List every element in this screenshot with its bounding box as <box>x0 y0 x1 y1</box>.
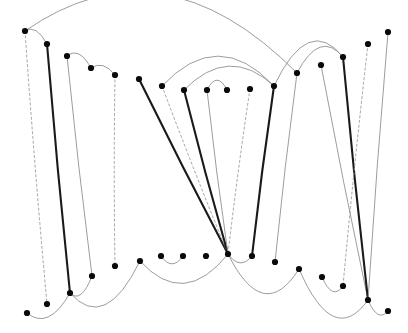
top-arc-7 <box>274 41 343 86</box>
graph-node-m0 <box>24 310 30 316</box>
graph-node-m4 <box>112 263 118 269</box>
long-edge-0 <box>25 31 47 304</box>
graph-node-m1 <box>44 301 50 307</box>
long-edge-4 <box>139 79 228 254</box>
long-edge-14 <box>368 32 388 300</box>
long-edge-13 <box>343 44 368 286</box>
bottom-arc-1 <box>70 261 140 307</box>
graph-node-m12 <box>296 266 302 272</box>
long-edge-1 <box>47 44 70 293</box>
graph-node-m15 <box>365 297 371 303</box>
bottom-arc-8 <box>322 277 343 292</box>
top-arc-edges <box>25 0 343 90</box>
graph-node-n0 <box>22 28 28 34</box>
top-arc-5 <box>184 66 274 90</box>
vertical-edges <box>25 31 388 304</box>
long-edge-11 <box>321 65 368 300</box>
graph-node-m10 <box>249 253 255 259</box>
long-edge-9 <box>252 86 274 256</box>
top-arc-8 <box>297 46 343 73</box>
bottom-arc-edges <box>27 254 388 319</box>
long-edge-8 <box>228 89 250 254</box>
graph-node-n3 <box>88 65 94 71</box>
long-edge-6 <box>184 90 228 254</box>
graph-node-n5 <box>136 76 142 82</box>
graph-node-m13 <box>319 274 325 280</box>
graph-node-n2 <box>64 53 70 59</box>
graph-node-m11 <box>272 259 278 265</box>
graph-diagram <box>0 0 408 333</box>
top-arc-3 <box>91 65 115 75</box>
graph-node-n11 <box>271 83 277 89</box>
graph-node-m5 <box>137 258 143 264</box>
graph-node-n16 <box>385 29 391 35</box>
top-arc-6 <box>207 80 227 90</box>
graph-node-m9 <box>225 251 231 257</box>
graph-node-n14 <box>340 54 346 60</box>
graph-node-m16 <box>385 308 391 314</box>
graph-node-n1 <box>44 41 50 47</box>
bottom-arc-6 <box>228 254 299 294</box>
bottom-arc-7 <box>299 269 368 318</box>
graph-node-n6 <box>159 83 165 89</box>
node-layer <box>22 28 391 316</box>
graph-node-n10 <box>247 86 253 92</box>
top-arc-0 <box>25 0 297 73</box>
figure-canvas <box>0 0 408 333</box>
bottom-arc-4 <box>161 256 183 264</box>
graph-node-m14 <box>340 283 346 289</box>
graph-node-n4 <box>112 72 118 78</box>
long-edge-12 <box>343 57 368 300</box>
graph-node-m6 <box>158 253 164 259</box>
graph-node-n15 <box>365 41 371 47</box>
top-arc-1 <box>25 29 47 44</box>
top-arc-4 <box>162 56 274 86</box>
long-edge-2 <box>67 56 92 276</box>
graph-node-m2 <box>67 290 73 296</box>
bottom-arc-2 <box>70 276 92 296</box>
long-edge-10 <box>275 73 297 262</box>
graph-node-n7 <box>181 87 187 93</box>
long-edge-3 <box>114 75 115 266</box>
graph-node-m7 <box>180 253 186 259</box>
graph-node-n8 <box>204 87 210 93</box>
bottom-arc-9 <box>368 300 388 315</box>
top-arc-2 <box>67 53 91 68</box>
graph-node-m3 <box>89 273 95 279</box>
graph-node-m8 <box>203 253 209 259</box>
long-edge-5 <box>162 86 228 254</box>
graph-node-n9 <box>224 87 230 93</box>
graph-node-n13 <box>318 62 324 68</box>
graph-node-n12 <box>294 70 300 76</box>
